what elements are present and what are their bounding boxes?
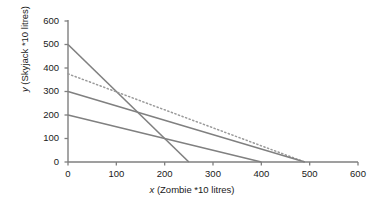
y-axis-tick-label: 300 — [29, 86, 59, 96]
series-constraint-line-2 — [68, 92, 305, 163]
series-constraint-line-1 — [68, 45, 189, 163]
x-axis-tick-label: 100 — [99, 169, 133, 179]
y-axis-tick-label: 200 — [29, 110, 59, 120]
y-axis-tick-label: 600 — [29, 16, 59, 26]
y-axis-tick-label: 100 — [29, 133, 59, 143]
series-objective-line-dotted — [68, 74, 305, 162]
x-axis-units: (Zombie *10 litres) — [154, 184, 234, 195]
x-axis-tick-label: 600 — [341, 169, 375, 179]
x-axis-tick-label: 300 — [196, 169, 230, 179]
x-axis-tick-label: 200 — [148, 169, 182, 179]
x-axis-tick-label: 500 — [293, 169, 327, 179]
chart-container: y (Skyjack *10 litres) x (Zombie *10 lit… — [0, 0, 384, 207]
x-axis-tick-label: 0 — [51, 169, 85, 179]
series-constraint-line-3 — [68, 115, 261, 162]
y-axis-tick-label: 400 — [29, 63, 59, 73]
y-axis-tick-label: 0 — [29, 157, 59, 167]
y-axis-title-wrapper: y (Skyjack *10 litres) — [14, 0, 28, 119]
x-axis-title: x (Zombie *10 litres) — [0, 184, 384, 195]
x-axis-tick-label: 400 — [244, 169, 278, 179]
y-axis-tick-label: 500 — [29, 39, 59, 49]
